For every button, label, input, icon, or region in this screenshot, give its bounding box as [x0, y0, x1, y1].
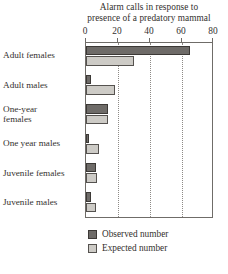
bar-expected [86, 203, 96, 213]
category-label: Juvenile males [0, 197, 81, 207]
bar-group [86, 131, 212, 160]
bar-observed [86, 46, 190, 56]
bar-group [86, 43, 212, 72]
legend-item-observed: Observed number [88, 227, 218, 241]
x-tick-label-20: 20 [112, 26, 121, 37]
category-label-line: Adult males [3, 80, 48, 90]
x-tick-label-40: 40 [144, 26, 153, 37]
chart-title-line-1: Alarm calls in response to [72, 2, 226, 13]
bar-expected [86, 85, 115, 95]
category-label: One year males [0, 138, 81, 148]
bar-observed [86, 75, 91, 85]
category-label-line: Adult females [3, 50, 55, 60]
bar-group [86, 160, 212, 189]
category-label: One-yearfemales [0, 104, 81, 125]
legend-swatch-expected [88, 244, 97, 253]
category-label: Adult males [0, 80, 81, 90]
bar-expected [86, 144, 99, 154]
plot-area [85, 42, 213, 218]
x-tick-label-80: 80 [208, 26, 217, 37]
x-tick-label-0: 0 [83, 26, 88, 37]
category-label-line: Juvenile females [3, 168, 64, 178]
chart-legend: Observed numberExpected number [88, 227, 218, 255]
chart-title-line-2: presence of a predatory mammal [72, 13, 226, 24]
y-axis-category-labels: Adult femalesAdult malesOne-yearfemalesO… [0, 42, 83, 218]
category-label-line: One-year [3, 104, 37, 114]
bar-expected [86, 173, 97, 183]
legend-label: Expected number [102, 243, 167, 254]
alarm-calls-bar-chart: Alarm calls in response to presence of a… [0, 0, 228, 274]
bar-observed [86, 163, 96, 173]
category-label-line: One year males [3, 138, 60, 148]
bar-group [86, 102, 212, 131]
chart-title: Alarm calls in response to presence of a… [72, 2, 226, 24]
bar-observed [86, 134, 89, 144]
bars-layer [86, 43, 212, 217]
bar-expected [86, 115, 108, 125]
bar-expected [86, 56, 134, 66]
legend-swatch-observed [88, 230, 97, 239]
category-label: Juvenile females [0, 168, 81, 178]
bar-observed [86, 192, 91, 202]
bar-observed [86, 104, 108, 114]
category-label-line: females [3, 114, 81, 124]
bar-group [86, 190, 212, 219]
category-label: Adult females [0, 50, 81, 60]
legend-item-expected: Expected number [88, 241, 218, 255]
bar-group [86, 72, 212, 101]
category-label-line: Juvenile males [3, 197, 57, 207]
x-tick-label-60: 60 [176, 26, 185, 37]
legend-label: Observed number [102, 229, 168, 240]
